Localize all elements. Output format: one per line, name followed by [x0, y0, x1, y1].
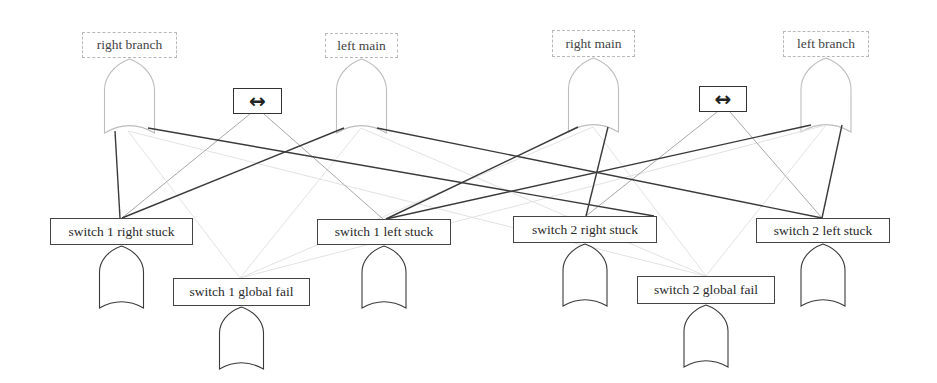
equivalence-node-2: ↔: [699, 86, 747, 112]
or-gates: [100, 244, 846, 369]
or-gate-icon: [801, 244, 845, 306]
event-switch-2-left-stuck: switch 2 left stuck: [756, 218, 890, 243]
edge: [115, 131, 120, 218]
edge: [386, 125, 811, 219]
equivalence-node-1: ↔: [233, 88, 282, 114]
or-gate-icon: [100, 246, 144, 308]
edge: [586, 112, 717, 216]
edge: [240, 128, 361, 278]
top-event-right-branch: right branch: [82, 32, 177, 58]
edge: [148, 128, 654, 216]
top-event-left-main: left main: [325, 33, 398, 58]
strong-edges: [115, 125, 842, 219]
or-gate-icon: [220, 307, 264, 369]
edge: [386, 127, 578, 219]
light-edges: [122, 112, 822, 219]
or-gate-icon: [569, 58, 619, 132]
edge: [593, 127, 706, 276]
edge: [122, 114, 250, 218]
event-switch-1-global-fail: switch 1 global fail: [173, 278, 310, 306]
edge: [240, 127, 593, 278]
or-gate-icon: [362, 246, 406, 308]
event-switch-1-right-stuck: switch 1 right stuck: [50, 218, 193, 245]
left-right-arrow-icon: ↔: [249, 89, 266, 113]
edge: [128, 131, 240, 278]
or-gate-icon: [105, 59, 155, 133]
top-event-left-branch: left branch: [783, 31, 869, 57]
or-gate-icon: [684, 305, 728, 367]
event-switch-2-right-stuck: switch 2 right stuck: [513, 216, 657, 243]
event-switch-1-left-stuck: switch 1 left stuck: [317, 219, 451, 245]
left-right-arrow-icon: ↔: [715, 87, 732, 111]
edge: [122, 128, 344, 218]
top-event-right-main: right main: [552, 30, 635, 57]
event-switch-2-global-fail: switch 2 global fail: [637, 276, 775, 304]
or-gate-icon: [801, 58, 851, 132]
or-gate-icon: [337, 59, 387, 133]
edge: [822, 125, 842, 218]
or-gate-icon: [563, 244, 607, 306]
